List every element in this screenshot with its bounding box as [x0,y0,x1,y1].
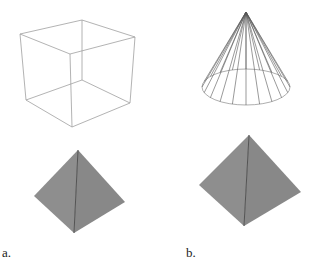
panel-label-a: a. [2,246,11,259]
wireframe-cube [20,20,135,127]
shaded-pyramid-b [199,135,301,226]
shaded-pyramid-a [34,150,125,233]
wireframe-cone [202,12,290,105]
figure-canvas [0,0,314,268]
panel-label-b: b. [186,246,196,259]
